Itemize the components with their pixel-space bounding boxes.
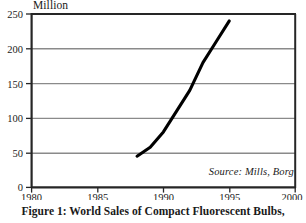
x-tick-label-1995: 1995 <box>219 192 240 201</box>
x-tick-label-1980: 1980 <box>21 192 42 201</box>
x-tick-label-2000: 2000 <box>282 192 303 201</box>
x-tick-label-1990: 1990 <box>153 192 174 201</box>
x-tick-label-1985: 1985 <box>87 192 108 201</box>
y-tick-label-150: 150 <box>7 79 23 90</box>
data-series-line <box>137 21 229 156</box>
y-tick-label-250: 250 <box>7 9 23 20</box>
gridlines <box>31 49 296 153</box>
source-attribution: Source: Mills, Borg <box>209 166 294 177</box>
data-series-group <box>137 21 229 156</box>
y-tick-label-50: 50 <box>13 148 24 159</box>
figure-caption: Figure 1: World Sales of Compact Fluores… <box>0 205 306 217</box>
plot-frame <box>31 13 296 188</box>
y-tick-label-200: 200 <box>7 44 23 55</box>
y-tick-label-100: 100 <box>7 113 23 124</box>
x-axis-tick-labels: 1980 1985 1990 1995 2000 <box>21 192 302 201</box>
y-axis-tick-labels: 250 200 150 100 50 0 <box>7 9 23 193</box>
figure-container: Million 250 200 150 <box>0 0 306 223</box>
